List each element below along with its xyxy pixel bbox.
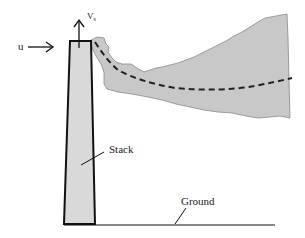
exit-velocity-subscript: s [94, 16, 96, 22]
wind-label: u [18, 40, 24, 52]
plume-shape [91, 14, 290, 118]
plume-diagram [0, 0, 305, 238]
exit-velocity-label: Vs [87, 11, 96, 22]
stack-label: Stack [109, 143, 133, 155]
ground-leader [175, 208, 186, 224]
stack [64, 41, 95, 224]
ground-label: Ground [181, 195, 215, 207]
